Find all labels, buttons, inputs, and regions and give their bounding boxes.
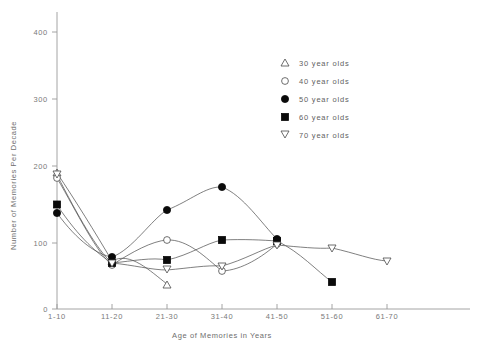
- point-70-61-70: [383, 258, 391, 265]
- point-50-21-30: [163, 206, 170, 213]
- legend-item-30-year-olds: 30 year olds: [281, 59, 349, 68]
- x-tick-label-61-70: 61-70: [376, 312, 399, 321]
- point-50-31-40: [218, 183, 225, 190]
- point-60-21-30: [164, 257, 171, 264]
- memories-per-decade-chart: 400 300 200 100 0 Number of Memories Per…: [0, 0, 481, 346]
- curve-50-year-olds: [57, 187, 277, 257]
- legend-item-70-year-olds: 70 year olds: [281, 131, 349, 140]
- x-tick-label-11-20: 11-20: [101, 312, 123, 321]
- legend-item-50-year-olds: 50 year olds: [281, 95, 349, 104]
- legend-label-70: 70 year olds: [299, 131, 349, 140]
- point-50-1-10: [53, 209, 60, 216]
- x-tick-label-1-10: 1-10: [48, 312, 66, 321]
- square-filled-icon: [282, 114, 289, 121]
- point-60-51-60: [329, 279, 336, 286]
- markers-30-year-olds: [53, 169, 171, 288]
- y-tick-label-300: 300: [33, 95, 48, 104]
- x-tick-label-41-50: 41-50: [266, 312, 289, 321]
- legend: 30 year olds 40 year olds 50 year olds 6…: [281, 59, 349, 140]
- triangle-up-open-icon: [281, 59, 289, 66]
- y-axis-label: Number of Memories Per Decade: [9, 121, 18, 250]
- legend-label-60: 60 year olds: [299, 113, 349, 122]
- legend-label-40: 40 year olds: [299, 77, 349, 86]
- triangle-down-open-icon: [281, 131, 289, 138]
- y-axis: 400 300 200 100 0 Number of Memories Per…: [9, 12, 57, 314]
- legend-label-50: 50 year olds: [299, 95, 349, 104]
- legend-item-40-year-olds: 40 year olds: [282, 77, 350, 86]
- x-tick-label-21-30: 21-30: [156, 312, 179, 321]
- point-60-31-40: [219, 237, 226, 244]
- circle-filled-icon: [281, 95, 288, 102]
- legend-item-60-year-olds: 60 year olds: [282, 113, 350, 122]
- markers-50-year-olds: [53, 183, 280, 260]
- y-tick-label-100: 100: [33, 239, 48, 248]
- point-40-21-30: [164, 237, 171, 244]
- curve-60-year-olds: [57, 205, 332, 282]
- x-tick-label-51-60: 51-60: [321, 312, 344, 321]
- x-axis: 1-10 11-20 21-30 31-40 41-50 51-60 61-70…: [48, 304, 470, 340]
- circle-open-icon: [282, 78, 289, 85]
- x-tick-label-31-40: 31-40: [211, 312, 234, 321]
- x-axis-label: Age of Memories in Years: [172, 331, 272, 340]
- point-60-1-10: [54, 201, 61, 208]
- y-tick-label-400: 400: [33, 28, 48, 37]
- legend-label-30: 30 year olds: [299, 59, 349, 68]
- y-tick-label-200: 200: [33, 162, 48, 171]
